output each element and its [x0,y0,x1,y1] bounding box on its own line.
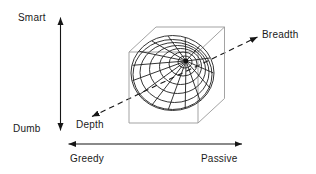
label-dumb: Dumb [13,123,40,135]
sphere-pole-dot [184,59,189,64]
label-depth: Depth [76,119,104,131]
label-greedy: Greedy [70,153,104,165]
label-breadth: Breadth [262,29,298,41]
diagram-drawing [0,0,316,174]
sphere-wireframe [131,36,214,111]
label-smart: Smart [18,12,46,24]
axes-sphere-diagram: Smart Dumb Depth Breadth Greedy Passive [0,0,316,174]
label-passive: Passive [201,153,237,165]
